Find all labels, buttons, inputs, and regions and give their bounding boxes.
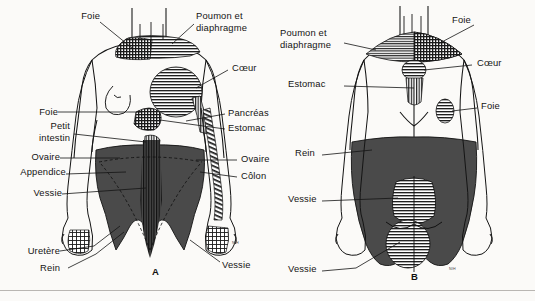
label-poumon-diaphragme-a-line2: diaphragme [196,22,247,33]
label-uretere: Uretère [4,245,60,256]
label-vessie-right-a: Vessie [222,259,251,270]
zone-coeur-anterior [150,67,202,117]
label-vessie-lower-b: Vessie [288,263,317,274]
zone-foie-flank-posterior [436,99,454,123]
label-petit-intestin-line1: Petit [18,120,70,131]
label-appendice: Appendice [2,166,66,177]
signature-mark-b: NIH [449,267,456,271]
zone-foie-shoulder-posterior [414,32,462,62]
label-poumon-diaphragme-a-line1: Poumon et [196,10,243,21]
label-foie-flank-b: Foie [481,100,500,111]
referred-pain-plate: Foie Foie Petit intestin Ovaire Appendic… [0,0,535,301]
label-poumon-diaphragme-b-line2: diaphragme [280,39,331,50]
zone-estomac-posterior [406,78,423,105]
anatomy-illustration [0,0,535,301]
label-vessie-upper-b: Vessie [288,193,317,204]
label-poumon-diaphragme-b-line1: Poumon et [280,27,327,38]
zone-coeur-posterior [402,60,426,80]
label-coeur-b: Cœur [477,57,502,68]
panel-a-figure [58,8,237,268]
zone-hand-grid-anterior-left [68,230,90,254]
label-ovaire-left: Ovaire [8,151,60,162]
label-estomac-a: Estomac [228,122,266,133]
zone-pancreas-estomac-anterior [134,108,161,130]
label-ovaire-right: Ovaire [241,153,270,164]
label-foie-abdomen-a: Foie [18,106,58,117]
panel-b-letter: B [411,271,418,282]
label-estomac-b: Estomac [288,78,326,89]
signature-mark-a: NIH [232,241,239,245]
label-coeur-a: Cœur [232,62,257,73]
label-colon: Côlon [241,170,266,181]
bottom-divider [0,290,535,291]
label-petit-intestin-line2: intestin [18,132,70,143]
label-rein-left-a: Rein [20,262,60,273]
panel-a-letter: A [152,266,159,277]
zone-arm-radiation-anterior [203,108,223,220]
label-rein-b: Rein [295,147,315,158]
panel-b-figure [322,6,492,272]
label-pancreas: Pancréas [228,107,269,118]
label-vessie-left-a: Vessie [8,187,62,198]
label-foie-shoulder-a: Foie [60,10,100,21]
zone-hand-grid-anterior [206,226,229,254]
zone-foie-shoulder-anterior [116,38,153,60]
label-foie-shoulder-b: Foie [452,14,471,25]
zone-vessie-midline-strip [140,140,162,258]
